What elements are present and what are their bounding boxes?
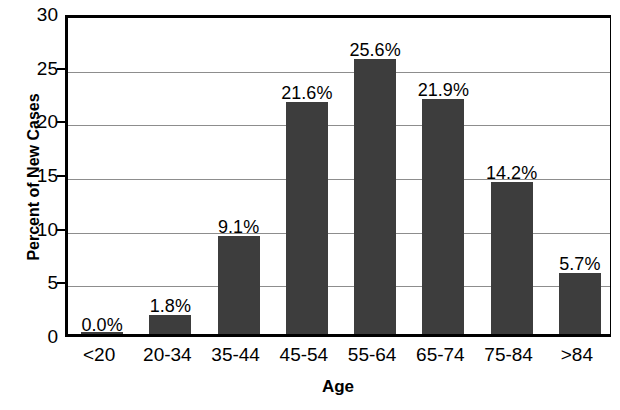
bar[interactable] — [559, 273, 601, 334]
bars-layer: 0.0%1.8%9.1%21.6%25.6%21.9%14.2%5.7% — [68, 18, 610, 334]
plot-area: 0.0%1.8%9.1%21.6%25.6%21.9%14.2%5.7% — [65, 15, 611, 337]
bar-chart: Percent of New Cases 051015202530 0.0%1.… — [0, 0, 620, 410]
bar-value-label: 9.1% — [194, 217, 284, 238]
bar[interactable] — [218, 236, 260, 334]
y-axis-tick-mark — [57, 229, 65, 231]
y-axis-tick-mark — [57, 282, 65, 284]
bar[interactable] — [491, 182, 533, 334]
y-axis-tick-mark — [57, 175, 65, 177]
bar-value-label: 14.2% — [467, 163, 557, 184]
bar-value-label: 21.6% — [262, 83, 352, 104]
bar[interactable] — [422, 99, 464, 334]
bar-value-label: 25.6% — [330, 40, 420, 61]
bar[interactable] — [286, 102, 328, 334]
bar-value-label: 1.8% — [125, 296, 215, 317]
y-axis-tick-mark — [57, 121, 65, 123]
y-axis-tick-labels: 051015202530 — [0, 0, 58, 410]
bar-value-label: 5.7% — [535, 254, 620, 275]
x-axis-tick-label: >84 — [532, 344, 620, 366]
y-axis-tick-label: 30 — [6, 5, 58, 24]
bar-value-label: 0.0% — [57, 315, 147, 336]
y-axis-tick-label: 20 — [6, 112, 58, 131]
y-axis-tick-label: 10 — [6, 220, 58, 239]
y-axis-tick-label: 15 — [6, 166, 58, 185]
x-axis-tick-labels: <2020-3435-4445-5455-6465-7475-84>84 — [65, 344, 611, 372]
y-axis-tick-label: 25 — [6, 59, 58, 78]
x-axis-title: Age — [65, 377, 611, 397]
y-axis-tick-mark — [57, 68, 65, 70]
bar-value-label: 21.9% — [398, 80, 488, 101]
y-axis-tick-label: 5 — [6, 273, 58, 292]
bar[interactable] — [354, 59, 396, 334]
y-axis-tick-label: 0 — [6, 327, 58, 346]
bar[interactable] — [149, 315, 191, 334]
